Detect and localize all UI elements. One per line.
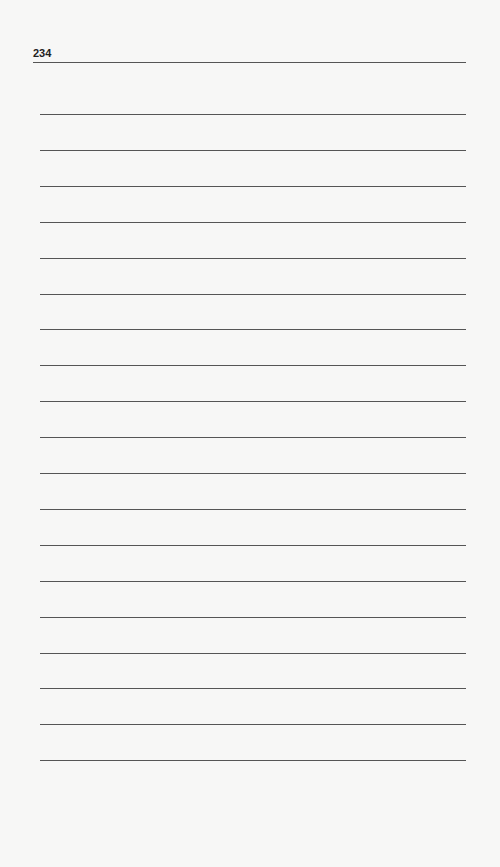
ruled-line — [40, 724, 466, 725]
ruled-line — [40, 114, 466, 115]
ruled-line — [40, 186, 466, 187]
header-rule — [33, 62, 466, 63]
ruled-line — [40, 258, 466, 259]
ruled-line — [40, 150, 466, 151]
ruled-line — [40, 760, 466, 761]
ruled-line — [40, 401, 466, 402]
ruled-line — [40, 617, 466, 618]
ruled-line — [40, 545, 466, 546]
ruled-line — [40, 365, 466, 366]
ruled-line — [40, 294, 466, 295]
ruled-line — [40, 437, 466, 438]
ruled-line — [40, 581, 466, 582]
ruled-line — [40, 653, 466, 654]
ruled-line — [40, 688, 466, 689]
page-number: 234 — [33, 47, 51, 59]
ruled-line — [40, 509, 466, 510]
ruled-line — [40, 329, 466, 330]
ruled-line — [40, 473, 466, 474]
ruled-line — [40, 222, 466, 223]
